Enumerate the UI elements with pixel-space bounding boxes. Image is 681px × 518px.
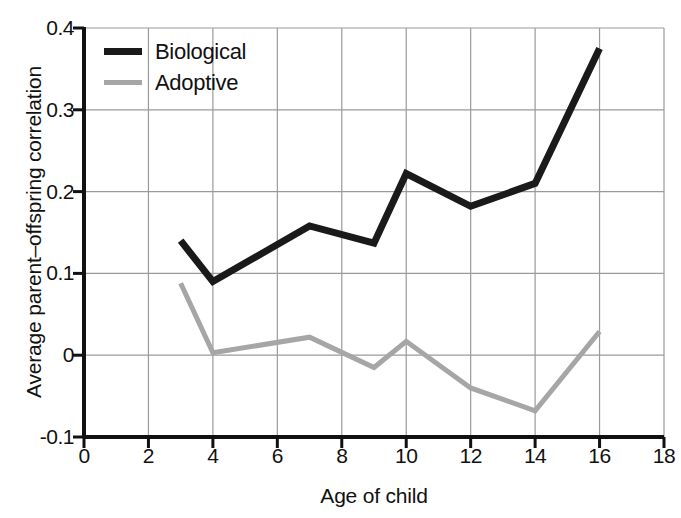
x-axis-title: Age of child [84,484,664,508]
legend-line-icon-biological [104,48,142,55]
x-tick-label: 16 [580,444,620,468]
x-tick-label: 2 [128,444,168,468]
chart-legend: Biological Adoptive [104,36,334,98]
x-tick-label: 14 [515,444,555,468]
plot-canvas [0,0,681,518]
legend-item-biological: Biological [104,36,334,67]
x-tick-label: 10 [386,444,426,468]
legend-label-biological: Biological [155,41,246,63]
x-tick-label: 8 [322,444,362,468]
x-tick-label: 6 [257,444,297,468]
y-axis-title: Average parent–offspring correlation [22,12,46,452]
x-tick-label: 12 [451,444,491,468]
x-tick-label: 18 [644,444,681,468]
x-tick-label: 4 [193,444,233,468]
legend-label-adoptive: Adoptive [155,72,238,94]
x-tick-label: 0 [64,444,104,468]
data-series [181,48,600,410]
chart-figure: -0.100.10.20.30.4 024681012141618 Averag… [0,0,681,518]
legend-line-icon-adoptive [104,80,142,85]
legend-item-adoptive: Adoptive [104,67,334,98]
